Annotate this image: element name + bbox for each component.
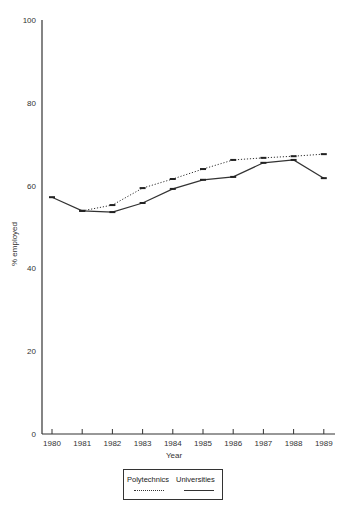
legend-swatch-polytechnics xyxy=(134,490,164,491)
y-tick-label: 20 xyxy=(27,347,36,356)
x-tick-label: 1983 xyxy=(134,439,152,448)
y-tick-label: 40 xyxy=(27,264,36,273)
x-tick-label: 1985 xyxy=(194,439,212,448)
legend-label-polytechnics: Polytechnics xyxy=(127,475,169,484)
series-line-universities xyxy=(52,160,324,212)
y-tick-label: 0 xyxy=(32,430,37,439)
x-axis-title: Year xyxy=(166,451,183,460)
x-tick-label: 1988 xyxy=(285,439,303,448)
y-axis-title: % employed xyxy=(10,222,19,266)
line-chart: 020406080100 198019811982198319841985198… xyxy=(0,0,348,512)
x-tick-label: 1987 xyxy=(255,439,273,448)
series-layer xyxy=(49,154,327,212)
series-line-polytechnics xyxy=(82,154,324,211)
y-tick-label: 100 xyxy=(23,16,37,25)
legend: Polytechnics Universities xyxy=(123,469,223,500)
x-axis: 1980198119821983198419851986198719881989 xyxy=(42,429,335,448)
legend-swatch-universities xyxy=(184,490,214,491)
legend-label-universities: Universities xyxy=(176,475,215,484)
x-tick-label: 1986 xyxy=(224,439,242,448)
y-tick-label: 80 xyxy=(27,99,36,108)
x-tick-label: 1984 xyxy=(164,439,182,448)
x-tick-label: 1980 xyxy=(43,439,61,448)
x-tick-label: 1989 xyxy=(315,439,333,448)
y-axis: 020406080100 xyxy=(23,16,42,439)
y-tick-label: 60 xyxy=(27,182,36,191)
x-tick-label: 1982 xyxy=(104,439,122,448)
x-tick-label: 1981 xyxy=(73,439,91,448)
